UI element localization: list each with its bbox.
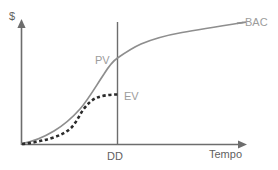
ev-series-label: EV (124, 91, 139, 102)
y-axis-arrowhead (17, 19, 25, 28)
y-axis-label: $ (9, 11, 15, 22)
pv-curve (22, 23, 243, 144)
pv-series-label: PV (95, 55, 110, 66)
chart-canvas (0, 0, 278, 170)
y-axis (17, 19, 25, 145)
evm-s-curve-chart: $ Tempo DD PV EV BAC (0, 0, 278, 170)
x-axis-label: Tempo (209, 149, 242, 160)
bac-label: BAC (245, 17, 268, 28)
data-date-label: DD (107, 151, 123, 162)
